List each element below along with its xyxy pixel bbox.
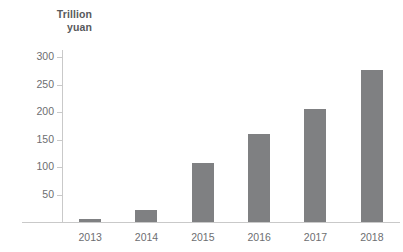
bar (248, 134, 270, 222)
y-axis-tick-label: 150 (20, 133, 54, 146)
bar-chart: Trillion yuan 50100150200250300 20132014… (0, 0, 403, 252)
y-axis-tick-label: 50 (20, 188, 54, 201)
x-axis-label: 2014 (119, 231, 175, 244)
x-axis-label: 2013 (62, 231, 118, 244)
y-axis-tick-label: 300 (20, 50, 54, 63)
bar (135, 210, 157, 222)
y-axis-tick-label: 250 (20, 78, 54, 91)
y-axis-tick-label: 200 (20, 105, 54, 118)
bar (361, 70, 383, 222)
bar-group (231, 50, 287, 222)
bar-group (62, 50, 118, 222)
y-axis-tick-label: 100 (20, 160, 54, 173)
x-axis-labels: 201320142015201620172018 (62, 222, 400, 252)
x-axis-label: 2018 (344, 231, 400, 244)
x-axis-label: 2015 (175, 231, 231, 244)
bar-group (287, 50, 343, 222)
bar-group (344, 50, 400, 222)
y-axis-ticks: 50100150200250300 (16, 0, 54, 252)
bar (192, 163, 214, 222)
bars-layer (62, 50, 400, 222)
bar-group (175, 50, 231, 222)
bar-group (118, 50, 174, 222)
x-axis-label: 2017 (288, 231, 344, 244)
bar (304, 109, 326, 222)
x-axis-label: 2016 (231, 231, 287, 244)
